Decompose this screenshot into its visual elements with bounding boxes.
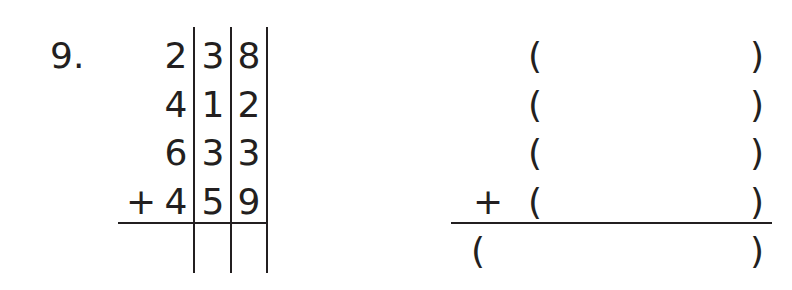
open-paren: (	[471, 233, 485, 269]
problem-number: 9.	[50, 38, 84, 74]
blank-input[interactable]	[545, 135, 745, 173]
sum-rule	[451, 222, 772, 224]
blank-input[interactable]	[545, 184, 745, 222]
answer-tens-cell[interactable]	[195, 232, 231, 270]
digit-ones: 9	[231, 184, 267, 220]
digit-tens: 1	[195, 87, 231, 123]
digit-hundreds: 2	[158, 38, 194, 74]
answer-hundreds-cell[interactable]	[158, 232, 194, 270]
digit-ones: 2	[231, 87, 267, 123]
digit-hundreds: 4	[158, 184, 194, 220]
digit-tens: 3	[195, 135, 231, 171]
digit-hundreds: 4	[158, 87, 194, 123]
close-paren: )	[750, 233, 764, 269]
blank-input[interactable]	[545, 38, 745, 76]
open-paren: (	[528, 135, 542, 171]
digit-tens: 3	[195, 38, 231, 74]
close-paren: )	[750, 135, 764, 171]
digit-ones: 8	[231, 38, 267, 74]
open-paren: (	[528, 38, 542, 74]
close-paren: )	[750, 87, 764, 123]
sum-rule	[118, 222, 268, 224]
sum-blank-input[interactable]	[490, 233, 745, 271]
digit-hundreds: 6	[158, 135, 194, 171]
digit-ones: 3	[231, 135, 267, 171]
plus-operator: +	[126, 184, 156, 220]
digit-tens: 5	[195, 184, 231, 220]
open-paren: (	[528, 87, 542, 123]
close-paren: )	[750, 184, 764, 220]
open-paren: (	[528, 184, 542, 220]
close-paren: )	[750, 38, 764, 74]
plus-operator: +	[473, 184, 503, 220]
answer-ones-cell[interactable]	[231, 232, 267, 270]
blank-input[interactable]	[545, 87, 745, 125]
